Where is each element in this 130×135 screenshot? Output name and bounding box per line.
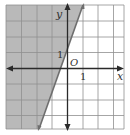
origin-label: O	[70, 57, 78, 68]
inequality-graph: y x O 1 1	[0, 0, 130, 135]
y-axis-label: y	[55, 8, 63, 21]
x-axis-label: x	[117, 70, 124, 83]
y-unit-label: 1	[57, 49, 63, 60]
x-unit-label: 1	[80, 71, 86, 82]
y-axis-arrow-down-icon	[65, 124, 71, 131]
boundary-arrow-bottom-icon	[38, 125, 42, 131]
